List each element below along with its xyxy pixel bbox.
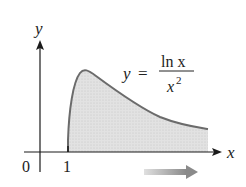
- tick-label-one: 1: [63, 158, 71, 175]
- improper-integral-figure: y x 0 1 y = ln x x 2: [0, 0, 246, 187]
- origin-label: 0: [22, 158, 30, 175]
- equation-denominator-base: x: [166, 78, 174, 95]
- equation-numerator: ln x: [161, 53, 185, 70]
- equation-lhs: y: [121, 64, 131, 83]
- equation-denominator-exponent: 2: [176, 74, 182, 86]
- extends-right-arrow-icon: [144, 165, 198, 179]
- equation-equals: =: [138, 64, 148, 83]
- y-axis-label: y: [33, 19, 43, 38]
- equation-label: y = ln x x 2: [121, 53, 194, 95]
- x-axis-label: x: [226, 143, 235, 162]
